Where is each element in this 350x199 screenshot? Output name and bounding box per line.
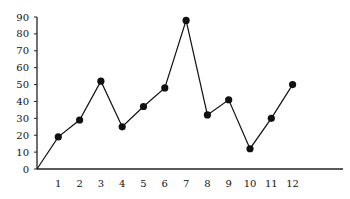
x-tick-label: 6 (162, 178, 168, 189)
y-axis: 0102030405060708090 (16, 12, 37, 175)
y-tick-label: 10 (16, 147, 29, 158)
data-point-marker (204, 111, 211, 118)
data-point-marker (246, 145, 253, 152)
data-point-marker (289, 81, 296, 88)
y-tick-label: 0 (23, 164, 29, 175)
data-point-marker (183, 17, 190, 24)
x-axis: 123456789101112 (37, 169, 343, 189)
x-tick-label: 7 (183, 178, 189, 189)
y-tick-label: 20 (16, 130, 29, 141)
data-point-marker (140, 103, 147, 110)
y-tick-label: 50 (16, 79, 29, 90)
line-chart: 0102030405060708090 123456789101112 (0, 0, 350, 199)
data-point-marker (268, 115, 275, 122)
x-tick-label: 3 (98, 178, 104, 189)
data-point-marker (225, 96, 232, 103)
data-point-marker (76, 116, 83, 123)
x-tick-label: 10 (244, 178, 257, 189)
data-point-marker (97, 78, 104, 85)
x-tick-label: 12 (286, 178, 299, 189)
data-point-marker (55, 133, 62, 140)
x-tick-label: 1 (55, 178, 61, 189)
x-tick-label: 9 (226, 178, 232, 189)
x-tick-label: 4 (119, 178, 125, 189)
data-markers (55, 17, 297, 153)
y-tick-label: 80 (16, 28, 29, 39)
x-tick-label: 5 (140, 178, 146, 189)
y-tick-label: 90 (16, 12, 29, 23)
x-tick-label: 8 (204, 178, 210, 189)
y-tick-label: 40 (16, 96, 29, 107)
y-tick-label: 70 (16, 45, 29, 56)
data-point-marker (119, 123, 126, 130)
series-line (37, 20, 293, 169)
y-tick-label: 30 (16, 113, 29, 124)
data-point-marker (161, 84, 168, 91)
x-tick-label: 11 (265, 178, 278, 189)
y-tick-label: 60 (16, 62, 29, 73)
x-tick-label: 2 (76, 178, 82, 189)
